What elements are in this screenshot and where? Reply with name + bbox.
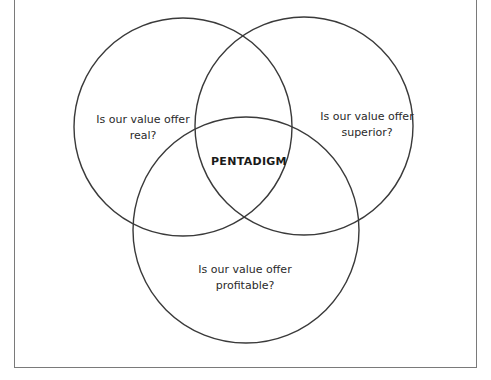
label-superior-line2: superior? — [312, 125, 422, 141]
label-real-line1: Is our value offer — [88, 112, 198, 128]
circle-profitable — [133, 117, 359, 343]
intersection-label: PENTADIGM — [211, 155, 287, 168]
venn-diagram — [0, 0, 491, 380]
label-superior-line1: Is our value offer — [312, 109, 422, 125]
label-profitable-line2: profitable? — [190, 278, 300, 294]
label-real: Is our value offer real? — [88, 112, 198, 144]
label-real-line2: real? — [88, 128, 198, 144]
label-profitable-line1: Is our value offer — [190, 262, 300, 278]
label-profitable: Is our value offer profitable? — [190, 262, 300, 294]
label-superior: Is our value offer superior? — [312, 109, 422, 141]
